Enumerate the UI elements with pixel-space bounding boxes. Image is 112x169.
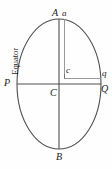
label-equator-text: Equator: [11, 34, 20, 88]
geometry-diagram: A a B P Q q C c Equator: [0, 0, 112, 169]
label-pole-a: a: [62, 9, 67, 18]
label-center-c: c: [66, 66, 70, 75]
label-center-C: C: [50, 88, 57, 98]
label-equator-Q: Q: [101, 84, 108, 94]
label-pole-B: B: [56, 152, 62, 162]
label-equator-P: P: [4, 78, 10, 88]
label-pole-A: A: [52, 8, 58, 18]
label-equator-q: q: [102, 69, 107, 78]
